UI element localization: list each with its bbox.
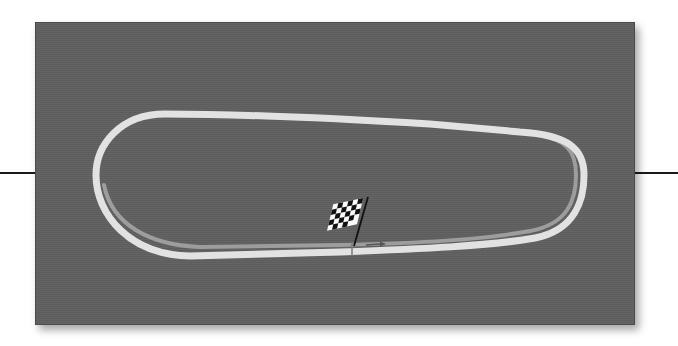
track-diagram (0, 0, 678, 346)
track-apron-line (104, 135, 576, 247)
checkered-flag-icon (327, 197, 368, 246)
